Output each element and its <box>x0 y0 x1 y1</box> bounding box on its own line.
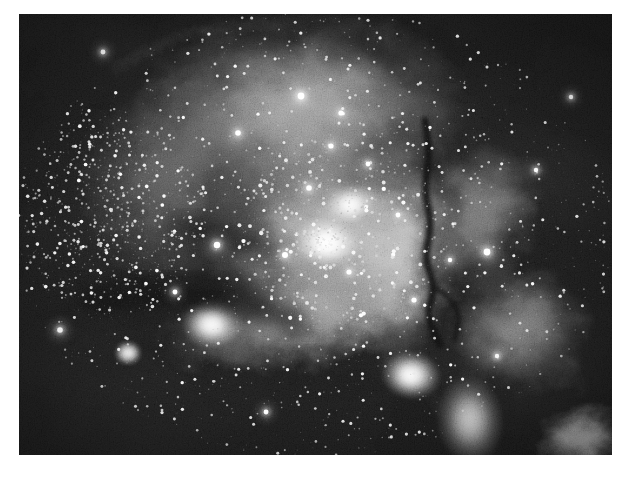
astronomy-image-plate <box>19 14 612 455</box>
sky-canvas <box>19 14 612 455</box>
page-root <box>0 0 629 480</box>
